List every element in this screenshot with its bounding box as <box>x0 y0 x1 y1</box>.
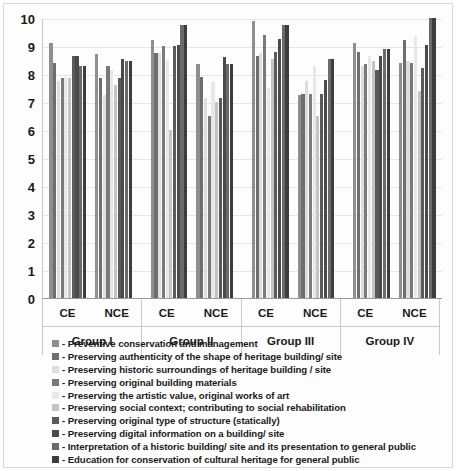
legend-item-9[interactable]: - Interpretation of a historic building/… <box>52 440 452 453</box>
x-axis-sub-row: CENCE <box>43 299 141 327</box>
bar <box>324 80 327 298</box>
bar <box>278 39 281 298</box>
bar <box>271 59 274 298</box>
bar <box>282 25 285 298</box>
y-axis-tick-5: 5 <box>28 153 35 166</box>
legend-label-3: - Preserving historic surroundings of he… <box>62 364 331 375</box>
x-axis-sub-label-nce-g4: NCE <box>390 307 439 319</box>
bar <box>68 78 71 298</box>
legend-item-6[interactable]: - Preserving social context; contributin… <box>52 401 452 414</box>
x-axis-sub-label-ce-g3: CE <box>242 307 291 319</box>
bar <box>208 116 211 298</box>
legend-item-4[interactable]: - Preserving original building materials <box>52 376 452 389</box>
bar <box>110 70 113 298</box>
bar <box>196 64 199 298</box>
legend-item-10[interactable]: - Education for conservation of cultural… <box>52 453 452 466</box>
legend-label-1: - Preventive conservation and management <box>62 338 258 349</box>
legend-swatch-9 <box>52 443 59 450</box>
bar <box>353 43 356 298</box>
legend-swatch-6 <box>52 404 59 411</box>
y-axis-tick-3: 3 <box>28 209 35 222</box>
bar <box>414 36 417 298</box>
bar <box>114 85 117 298</box>
legend-swatch-3 <box>52 366 59 373</box>
bar <box>57 81 60 298</box>
legend-item-3[interactable]: - Preserving historic surroundings of he… <box>52 363 452 376</box>
y-axis-tick-2: 2 <box>28 237 35 250</box>
bar <box>316 116 319 298</box>
bar <box>259 53 262 298</box>
bar <box>379 56 382 298</box>
bar <box>211 82 214 298</box>
bar <box>320 94 323 298</box>
bar <box>95 54 98 298</box>
bar <box>121 59 124 298</box>
bar <box>173 46 176 298</box>
legend-item-5[interactable]: - Preserving the artistic value, origina… <box>52 389 452 402</box>
bar <box>200 77 203 298</box>
bar <box>301 94 304 298</box>
bar <box>151 40 154 298</box>
y-axis-tick-9: 9 <box>28 41 35 54</box>
bar <box>399 63 402 298</box>
bar <box>406 61 409 298</box>
bar <box>204 98 207 298</box>
bar <box>403 40 406 298</box>
bar <box>49 43 52 298</box>
legend-label-7: - Preserving original type of structure … <box>62 415 280 426</box>
bar <box>230 64 233 298</box>
legend-item-7[interactable]: - Preserving original type of structure … <box>52 414 452 427</box>
x-axis-sub-label-ce-g1: CE <box>43 307 92 319</box>
legend-label-5: - Preserving the artistic value, origina… <box>62 390 289 401</box>
bar <box>364 64 367 298</box>
y-axis-tick-1: 1 <box>28 265 35 278</box>
legend-swatch-2 <box>52 353 59 360</box>
bar <box>215 102 218 298</box>
bar <box>166 60 169 298</box>
bar-group-2 <box>144 19 239 298</box>
bar-group-4 <box>347 19 442 298</box>
bar <box>53 63 56 298</box>
bar <box>169 130 172 298</box>
x-axis-sub-label-ce-g4: CE <box>341 307 390 319</box>
bar <box>267 88 270 298</box>
y-axis-tick-0: 0 <box>28 293 35 306</box>
legend-item-8[interactable]: - Preserving digital information on a bu… <box>52 427 452 440</box>
y-axis-tick-6: 6 <box>28 125 35 138</box>
legend-label-2: - Preserving authenticity of the shape o… <box>62 351 342 362</box>
bar-series-container <box>43 19 442 298</box>
bar-subgroup-nce-g2 <box>196 19 233 298</box>
bar-subgroup-nce-g1 <box>95 19 132 298</box>
bar-subgroup-ce-g1 <box>49 19 86 298</box>
bar <box>106 66 109 298</box>
bar <box>375 70 378 298</box>
bar <box>313 66 316 298</box>
x-axis-sub-label-ce-g2: CE <box>142 307 191 319</box>
plot-area <box>42 19 442 299</box>
legend-label-10: - Education for conservation of cultural… <box>62 454 360 465</box>
legend-item-2[interactable]: - Preserving authenticity of the shape o… <box>52 350 452 363</box>
legend-item-1[interactable]: - Preventive conservation and management <box>52 337 452 350</box>
bar <box>263 35 266 298</box>
bar <box>72 56 75 298</box>
bar <box>177 45 180 298</box>
bar <box>223 57 226 298</box>
legend-label-9: - Interpretation of a historic building/… <box>62 441 416 452</box>
subgroup-gap <box>390 19 399 298</box>
x-axis-sub-row: CENCE <box>341 299 439 327</box>
bar <box>118 78 121 298</box>
bar <box>226 64 229 298</box>
bar <box>432 18 435 298</box>
y-axis-tick-10: 10 <box>21 13 35 26</box>
legend-swatch-4 <box>52 379 59 386</box>
bar <box>252 21 255 298</box>
bar <box>421 68 424 298</box>
bar <box>61 78 64 298</box>
bar-subgroup-nce-g3 <box>298 19 335 298</box>
bar <box>180 25 183 298</box>
bar <box>309 94 312 298</box>
bar <box>162 46 165 298</box>
y-axis-tick-4: 4 <box>28 181 35 194</box>
bar <box>410 63 413 298</box>
subgroup-gap <box>187 19 196 298</box>
